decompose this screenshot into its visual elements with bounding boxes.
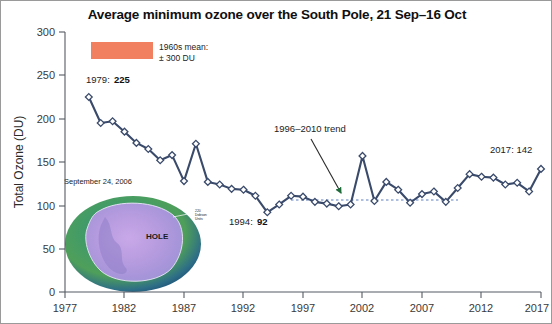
y-tick-300: 300 [37, 26, 55, 38]
series-marker [335, 203, 342, 210]
inset-hole-label: HOLE [146, 232, 169, 241]
y-tick-0: 0 [49, 286, 55, 298]
chart-plot-area: September 24, 2006 HOLE 220 Dobson Units… [1, 1, 552, 324]
legend-label-line2: ± 300 DU [159, 53, 195, 63]
x-tick-2017: 2017 [525, 302, 549, 314]
annotation-2017: 2017: 142 [490, 144, 532, 155]
annotation-1979: 1979: 225 [86, 74, 131, 85]
ozone-hole-inset: September 24, 2006 HOLE 220 Dobson Units [64, 177, 207, 292]
ozone-chart-figure: Average minimum ozone over the South Pol… [0, 0, 552, 324]
x-axis: 1977 1982 1987 1992 1997 2002 2007 2012 … [53, 292, 549, 314]
series-marker [169, 152, 176, 159]
x-axis-ticks [65, 292, 541, 298]
ozone-data-series [85, 94, 544, 216]
x-tick-2002: 2002 [350, 302, 374, 314]
x-tick-1987: 1987 [172, 302, 196, 314]
y-tick-200: 200 [37, 113, 55, 125]
inset-caption: September 24, 2006 [64, 177, 132, 186]
annotation-1994-prefix: 1994: [229, 216, 253, 227]
annotation-1979-value: 225 [114, 74, 131, 85]
x-tick-2012: 2012 [469, 302, 493, 314]
annotation-1994: 1994: 92 [229, 216, 268, 227]
legend: 1960s mean: ± 300 DU [91, 42, 208, 63]
y-axis-ticks [59, 32, 65, 292]
legend-swatch-1960s-mean [91, 42, 153, 59]
series-marker [181, 178, 188, 185]
series-line [89, 97, 541, 212]
x-tick-2007: 2007 [410, 302, 434, 314]
series-marker [193, 140, 200, 147]
x-tick-1982: 1982 [112, 302, 136, 314]
annotation-1994-value: 92 [257, 216, 268, 227]
annotation-2017-label: 2017: 142 [490, 144, 532, 155]
y-tick-100: 100 [37, 200, 55, 212]
series-marker [347, 201, 354, 208]
series-marker [323, 200, 330, 207]
series-marker [228, 185, 235, 192]
series-marker [85, 94, 92, 101]
annotation-trend-label: 1996–2010 trend [274, 123, 346, 134]
x-tick-1992: 1992 [231, 302, 255, 314]
series-marker [204, 179, 211, 186]
annotation-trend: 1996–2010 trend [274, 123, 346, 193]
series-marker [300, 193, 307, 200]
y-tick-50: 50 [43, 243, 55, 255]
y-tick-250: 250 [37, 69, 55, 81]
series-marker [359, 153, 366, 160]
inset-edge-label-3: Units [195, 217, 203, 221]
y-tick-150: 150 [37, 156, 55, 168]
annotation-trend-arrow [311, 139, 341, 193]
x-tick-1997: 1997 [291, 302, 315, 314]
series-marker [478, 173, 485, 180]
series-marker [97, 120, 104, 127]
y-axis: 300 250 200 150 100 50 0 Total Ozone (DU… [12, 26, 65, 298]
legend-label-line1: 1960s mean: [159, 42, 208, 52]
annotation-1979-prefix: 1979: [86, 74, 110, 85]
series-marker [216, 181, 223, 188]
y-axis-title: Total Ozone (DU) [12, 116, 26, 209]
x-tick-1977: 1977 [53, 302, 77, 314]
